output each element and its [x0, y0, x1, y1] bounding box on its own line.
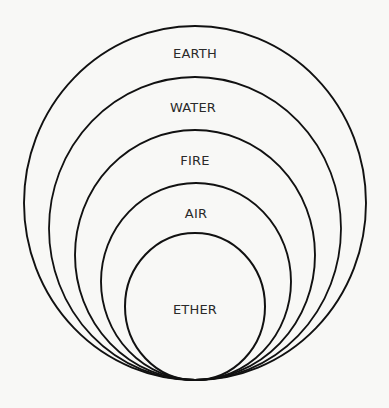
label-earth: EARTH — [173, 46, 217, 61]
ring-earth — [24, 26, 366, 380]
label-water: WATER — [170, 100, 216, 115]
ring-water — [49, 77, 341, 380]
ring-fire — [75, 130, 315, 380]
label-ether: ETHER — [173, 302, 217, 317]
label-air: AIR — [185, 206, 207, 221]
nested-elements-diagram — [0, 0, 389, 408]
label-fire: FIRE — [180, 153, 209, 168]
